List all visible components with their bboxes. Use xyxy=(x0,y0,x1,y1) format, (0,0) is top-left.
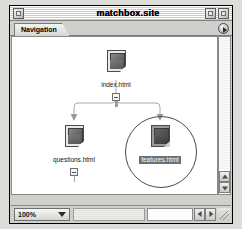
document-icon xyxy=(150,123,170,146)
document-icon xyxy=(106,48,126,71)
vertical-scroll-track[interactable] xyxy=(219,37,230,170)
node-label: index.html xyxy=(100,81,132,89)
scroll-left-arrow-icon[interactable] xyxy=(194,208,205,221)
document-icon xyxy=(64,123,84,146)
status-bar: 100% xyxy=(11,205,231,222)
close-box-icon[interactable] xyxy=(13,8,24,19)
window-title-text: matchbox.site xyxy=(92,8,163,18)
tab-navigation[interactable]: Navigation xyxy=(14,23,70,36)
tab-strip: Navigation xyxy=(10,21,232,36)
zoom-box-icon[interactable] xyxy=(205,8,216,19)
node-label-selected: features.html xyxy=(139,156,181,164)
node-features[interactable]: features.html xyxy=(122,123,198,166)
document-page-icon xyxy=(65,125,84,147)
connector-stem xyxy=(74,176,75,182)
site-map-graph: index.html questions.html xyxy=(12,37,217,194)
site-map-canvas[interactable]: index.html questions.html xyxy=(11,36,218,195)
node-label: questions.html xyxy=(52,156,96,164)
title-bar-buttons xyxy=(205,8,229,19)
status-bar-filler xyxy=(73,208,145,221)
vertical-scrollbar[interactable] xyxy=(218,36,231,195)
node-index[interactable]: index.html xyxy=(78,48,154,107)
horizontal-scroll-arrows xyxy=(194,208,216,221)
resize-grip-icon[interactable] xyxy=(217,208,230,221)
collapse-toggle-questions[interactable] xyxy=(70,168,78,176)
collapse-toggle-index[interactable] xyxy=(112,93,120,101)
chevron-down-icon xyxy=(58,212,66,217)
horizontal-scroll-track[interactable] xyxy=(147,208,193,221)
tab-expand-arrow-icon[interactable] xyxy=(218,23,229,34)
collapse-box-icon[interactable] xyxy=(218,8,229,19)
desktop-background: matchbox.site Navigation xyxy=(0,0,242,229)
window-title: matchbox.site xyxy=(24,7,232,20)
document-shade-icon xyxy=(110,60,123,69)
scroll-up-arrow-icon[interactable] xyxy=(219,171,230,182)
scroll-right-arrow-icon[interactable] xyxy=(205,208,216,221)
site-map-window: matchbox.site Navigation xyxy=(9,5,233,224)
document-page-icon xyxy=(107,50,126,72)
zoom-level-value: 100% xyxy=(18,211,36,218)
document-page-icon xyxy=(151,125,170,147)
document-shade-icon xyxy=(154,135,167,144)
zoom-level-dropdown[interactable]: 100% xyxy=(14,208,70,221)
window-title-bar[interactable]: matchbox.site xyxy=(10,6,232,21)
scroll-down-arrow-icon[interactable] xyxy=(219,182,230,193)
node-questions[interactable]: questions.html xyxy=(36,123,112,182)
connector-stem xyxy=(115,101,118,107)
document-shade-icon xyxy=(68,135,81,144)
